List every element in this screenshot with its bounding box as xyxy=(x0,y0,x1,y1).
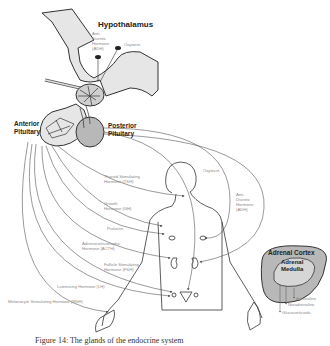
ovary-left xyxy=(172,293,176,297)
prolactin-label: Prolactin xyxy=(107,226,123,231)
hypothalamus-adh-label: Anti- Diuretic Hormone (ADH) xyxy=(92,31,109,51)
oxytocin-neuron-icon xyxy=(115,46,121,50)
tsh-label: Thyroid Stimulating Hormone (TSH) xyxy=(104,174,140,184)
diagram-artwork xyxy=(0,0,330,346)
uterus xyxy=(180,292,192,302)
posterior-pituitary-label: Posterior Pituitary xyxy=(108,122,137,138)
figure-caption: Figure 14: The glands of the endocrine s… xyxy=(35,336,184,345)
adrenaline-label: Adrenaline xyxy=(296,296,316,301)
glucocorticoids-label: Glucocorticoids xyxy=(282,310,311,315)
breast-left xyxy=(169,236,175,240)
posterior-oxytocin-label: Oxytocin xyxy=(203,168,219,173)
noradrenaline-label: Noradrenaline xyxy=(288,302,314,307)
hypothalamus-oxytocin-label: Oxytocin xyxy=(124,42,140,47)
anterior-pituitary-label: Anterior Pituitary xyxy=(14,120,40,136)
lh-label: Luteinising Hormone (LH) xyxy=(57,284,105,289)
posterior-adh-label: Anti- Diuretic Hormone (ADH) xyxy=(236,192,253,212)
adh-neuron-icon xyxy=(95,55,101,59)
adrenal-medulla-label: Adrenal Medulla xyxy=(281,259,303,273)
organs xyxy=(169,236,206,302)
adrenal-cortex-label: Adrenal Cortex xyxy=(268,249,315,256)
msh-label: Melanocyte Stimulating Hormone (MSH) xyxy=(8,299,83,304)
kidney-left xyxy=(171,258,177,269)
endocrine-diagram: Hypothalamus Anterior Pituitary Posterio… xyxy=(0,0,330,346)
fsh-label: Follicle Stimulating Hormone (FSH) xyxy=(104,262,139,272)
gh-label: Growth Hormone (GH) xyxy=(104,201,131,211)
ovary-right xyxy=(194,293,198,297)
hypothalamus-label: Hypothalamus xyxy=(98,20,153,29)
pituitary-shape xyxy=(40,104,104,147)
acth-label: Adrenocorticotrophic Hormone (ACTH) xyxy=(82,241,120,251)
